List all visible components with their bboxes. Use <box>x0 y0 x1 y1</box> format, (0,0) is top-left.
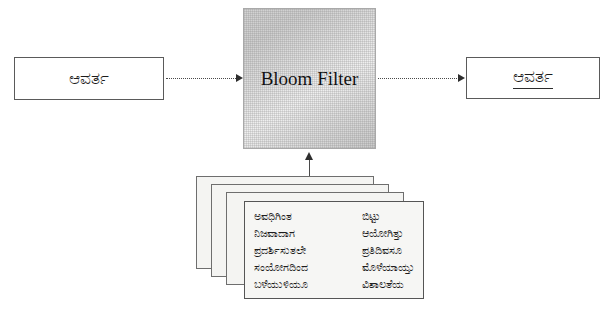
document-word: ಪ್ರತಿದಿವಸೂ <box>362 242 415 258</box>
filter-to-output-connector <box>378 78 459 79</box>
document-word: ನಿಜವಾದಾಗ <box>254 225 308 241</box>
document-right-column: ಬಿಟ್ಟು ಆಯೋಗಿತ್ತು ಪ್ರತಿದಿವಸೂ ಮೊಳೆಯಾಯ್ತು ವ… <box>362 208 415 292</box>
document-word: ವಿಶಾಲತೆಯ <box>362 276 415 292</box>
document-card-front: ಅವಧಿಗಿಂತ ನಿಜವಾದಾಗ ಪ್ರದರ್ಶಿಸುತಲೇ ಸಂಯೋಗದಿಂ… <box>244 201 424 299</box>
document-word: ಬಳೆಯುಳಿಯೂ <box>254 276 308 292</box>
output-term-label: ಆವರ್ತ <box>513 67 554 89</box>
document-word: ಮೊಳೆಯಾಯ್ತು <box>362 259 415 275</box>
bloom-filter-label: Bloom Filter <box>261 68 359 90</box>
document-word: ಸಂಯೋಗದಿಂದ <box>254 259 308 275</box>
documents-to-filter-arrowhead-icon <box>305 152 313 160</box>
input-to-filter-connector <box>166 78 238 79</box>
document-word: ಪ್ರದರ್ಶಿಸುತಲೇ <box>254 242 308 258</box>
bloom-filter-box: Bloom Filter <box>243 8 376 149</box>
diagram-canvas: ಆವರ್ತ Bloom Filter ಆವರ್ತ ಅವಧಿಗಿಂತ ನಿಜವಾದ… <box>0 0 612 314</box>
input-term-label: ಆವರ್ತ <box>69 69 110 89</box>
filter-to-output-arrowhead-icon <box>458 74 465 82</box>
document-word: ಬಿಟ್ಟು <box>362 208 415 224</box>
output-term-box: ಆವರ್ತ <box>466 57 600 99</box>
input-to-filter-arrowhead-icon <box>236 74 243 82</box>
input-term-box: ಆವರ್ತ <box>14 57 164 100</box>
document-word: ಆಯೋಗಿತ್ತು <box>362 225 415 241</box>
document-stack: ಅವಧಿಗಿಂತ ನಿಜವಾದಾಗ ಪ್ರದರ್ಶಿಸುತಲೇ ಸಂಯೋಗದಿಂ… <box>196 176 426 302</box>
document-word: ಅವಧಿಗಿಂತ <box>254 208 308 224</box>
document-left-column: ಅವಧಿಗಿಂತ ನಿಜವಾದಾಗ ಪ್ರದರ್ಶಿಸುತಲೇ ಸಂಯೋಗದಿಂ… <box>254 208 308 292</box>
